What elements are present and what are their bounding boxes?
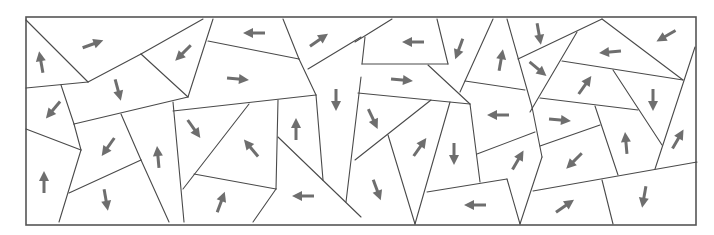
diagram-frame: [26, 17, 696, 225]
tiling-diagram: [0, 0, 714, 235]
diagram-canvas: [0, 0, 714, 235]
